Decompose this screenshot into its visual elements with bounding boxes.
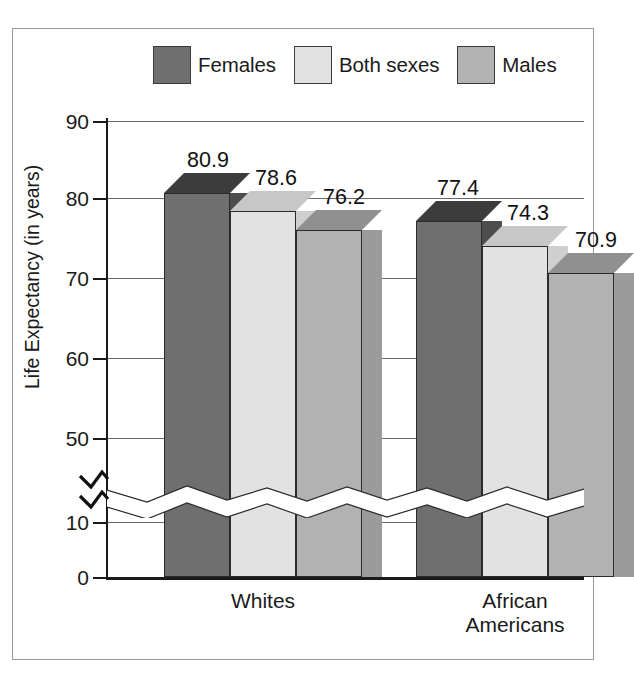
bar xyxy=(230,211,296,577)
bar-top-face-ext xyxy=(614,253,634,273)
bar-top-face xyxy=(164,173,230,193)
y-tick-50 xyxy=(93,438,108,440)
bar-front-face xyxy=(164,193,230,577)
legend-swatch-males xyxy=(457,46,495,84)
bar-top-face-ext xyxy=(548,226,568,246)
y-tick-60 xyxy=(93,358,108,360)
bar xyxy=(482,246,548,577)
category-label-line: African xyxy=(465,589,564,613)
bar xyxy=(296,230,362,577)
bar-top-face-ext xyxy=(362,210,382,230)
x-axis-line xyxy=(106,577,584,580)
legend-item-both-sexes: Both sexes xyxy=(294,46,457,84)
y-axis-break-icon xyxy=(78,466,124,514)
bar-value-label: 74.3 xyxy=(507,201,549,226)
bar xyxy=(548,273,614,577)
chart-legend: Females Both sexes Males xyxy=(153,46,575,84)
bar-front-face xyxy=(230,211,296,577)
legend-item-females: Females xyxy=(153,46,294,84)
y-tick-80 xyxy=(93,198,108,200)
bar-value-label: 76.2 xyxy=(323,185,365,210)
y-tick-label-50: 50 xyxy=(66,427,89,451)
legend-swatch-both-sexes xyxy=(294,46,332,84)
category-label-line: Americans xyxy=(465,613,564,637)
chart-frame: Females Both sexes Males Life Expectancy… xyxy=(12,28,594,660)
bar xyxy=(164,193,230,577)
legend-item-males: Males xyxy=(457,46,574,84)
bar-top-face-ext xyxy=(296,191,316,211)
bar-value-label: 70.9 xyxy=(575,228,617,253)
y-tick-label-90: 90 xyxy=(66,110,89,134)
bar-front-face xyxy=(296,230,362,577)
y-tick-label-0: 0 xyxy=(77,566,89,590)
bar-value-label: 78.6 xyxy=(255,166,297,191)
category-label: AfricanAmericans xyxy=(465,589,564,637)
category-label-line: Whites xyxy=(231,589,295,613)
bar-value-label: 80.9 xyxy=(187,148,229,173)
bar-front-face xyxy=(416,221,482,577)
bar-side-face xyxy=(614,273,634,577)
y-tick-label-80: 80 xyxy=(66,187,89,211)
bar-side-face xyxy=(362,230,382,577)
bar-top-face-ext xyxy=(482,201,502,221)
y-tick-label-70: 70 xyxy=(66,267,89,291)
bar-top-face xyxy=(416,201,482,221)
legend-label-males: Males xyxy=(502,53,556,77)
legend-label-females: Females xyxy=(198,53,276,77)
bar-top-face-ext xyxy=(230,173,250,193)
bar xyxy=(416,221,482,577)
legend-swatch-females xyxy=(153,46,191,84)
y-tick-label-10: 10 xyxy=(66,511,89,535)
bar-front-face xyxy=(548,273,614,577)
gridline-90 xyxy=(106,121,584,122)
y-tick-70 xyxy=(93,278,108,280)
y-axis-title: Life Expectancy (in years) xyxy=(21,165,44,389)
y-tick-0 xyxy=(93,577,108,579)
y-tick-90 xyxy=(93,121,108,123)
y-tick-label-60: 60 xyxy=(66,347,89,371)
plot-area: 9080706050100 80.978.676.277.474.370.9 xyxy=(106,118,584,579)
y-tick-10 xyxy=(93,522,108,524)
bar-front-face xyxy=(482,246,548,577)
category-label: Whites xyxy=(231,589,295,613)
bar-value-label: 77.4 xyxy=(437,176,479,201)
legend-label-both-sexes: Both sexes xyxy=(339,53,439,77)
